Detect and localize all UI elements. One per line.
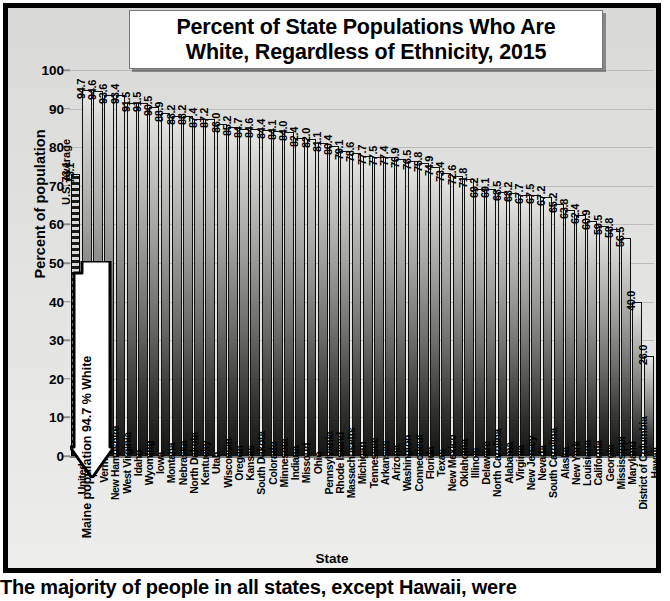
bar[interactable]: 67.5 xyxy=(531,195,541,456)
bar[interactable]: 84.1 xyxy=(273,131,283,456)
bar-value-label-wrap: 82.0 xyxy=(308,100,316,140)
bar-slot: 79.1 xyxy=(340,8,351,456)
bar[interactable]: 60.9 xyxy=(587,221,597,456)
y-axis-tick-label: 30 xyxy=(49,333,64,348)
bar-value-label-wrap: 63.8 xyxy=(566,171,574,211)
bar-slot: 78.6 xyxy=(351,8,362,456)
bar[interactable]: 56.5 xyxy=(621,238,631,456)
bar[interactable]: 77.7 xyxy=(363,156,373,456)
bar[interactable]: 91.5 xyxy=(127,103,137,456)
bar[interactable]: 82.4 xyxy=(295,138,305,456)
bar-slot: 77.7 xyxy=(362,8,373,456)
bar[interactable]: 93.4 xyxy=(116,95,126,456)
bar[interactable]: 75.8 xyxy=(419,163,429,456)
bar[interactable]: 71.8 xyxy=(464,179,474,456)
bar[interactable]: 86.0 xyxy=(217,124,227,456)
bar[interactable]: 73.4 xyxy=(441,173,451,456)
bar-value-label-wrap: 87.4 xyxy=(195,80,203,120)
bar-value-label-wrap: 67.7 xyxy=(521,156,529,196)
bar-value-label-wrap: 68.2 xyxy=(510,154,518,194)
bar[interactable]: 84.4 xyxy=(262,130,272,456)
bar[interactable]: 84.0 xyxy=(284,132,294,456)
bar-value-label-wrap: 71.8 xyxy=(465,140,473,180)
y-axis-title: Percent of population xyxy=(32,24,48,384)
bar[interactable]: 87.2 xyxy=(205,119,215,456)
bar[interactable]: 88.9 xyxy=(161,113,171,456)
bar[interactable]: 68.2 xyxy=(509,193,519,456)
bar-slot: 82.4 xyxy=(295,8,306,456)
bar-value-label-wrap: 26.0 xyxy=(645,317,653,357)
bar[interactable]: 67.7 xyxy=(520,195,530,456)
bar-value-label-wrap: 82.4 xyxy=(296,99,304,139)
bar[interactable]: 69.2 xyxy=(475,189,485,456)
bar-value-label-wrap: 94.7 xyxy=(83,51,91,91)
maine-callout-arrow: Maine population 94.7 % White xyxy=(70,261,114,478)
bar-value-label-wrap: 65.2 xyxy=(555,165,563,205)
bar-value-label-wrap: 67.5 xyxy=(532,156,540,196)
bar[interactable]: 78.6 xyxy=(352,153,362,456)
bar[interactable]: 68.5 xyxy=(498,192,508,456)
bar-value-label-wrap: 86.0 xyxy=(218,85,226,125)
bar-slot: 86.0 xyxy=(216,8,227,456)
bar[interactable]: 67.2 xyxy=(543,197,553,456)
bar-value-label-wrap: 72.6 xyxy=(454,137,462,177)
bar[interactable]: 58.8 xyxy=(610,229,620,456)
bar-slot: 80.4 xyxy=(328,8,339,456)
bar-slot: 69.2 xyxy=(474,8,485,456)
bar[interactable]: 59.5 xyxy=(599,226,609,456)
bar-value-label-wrap: 84.1 xyxy=(274,92,282,132)
chart-frame: 0102030405060708090100 Percent of popula… xyxy=(3,3,661,573)
bar-value-label-wrap: 84.6 xyxy=(251,90,259,130)
bar[interactable]: 79.1 xyxy=(340,151,350,456)
bar[interactable]: 87.4 xyxy=(194,119,204,456)
bar-value-label-wrap: 84.7 xyxy=(240,90,248,130)
bar-value-label-wrap: 60.9 xyxy=(588,182,596,222)
bar[interactable]: 65.2 xyxy=(554,204,564,456)
bar-slot: 67.7 xyxy=(519,8,530,456)
bar-value-label-wrap: 78.6 xyxy=(353,114,361,154)
bar-value-label-wrap: 74.9 xyxy=(431,128,439,168)
bar[interactable]: 85.2 xyxy=(228,127,238,456)
bar-slot: 88.9 xyxy=(160,8,171,456)
bar-value-label-wrap: 91.5 xyxy=(128,64,136,104)
bar-value-label-wrap: 88.2 xyxy=(173,77,181,117)
bar[interactable]: 84.6 xyxy=(250,129,260,456)
bar[interactable]: 63.8 xyxy=(565,210,575,456)
bar-slot: 62.4 xyxy=(576,8,587,456)
bar[interactable]: 76.5 xyxy=(408,161,418,456)
bar-slot: 90.5 xyxy=(149,8,160,456)
bar-slot: 59.5 xyxy=(598,8,609,456)
bar-slot: 56.5 xyxy=(620,8,631,456)
bar[interactable]: 62.4 xyxy=(576,215,586,456)
bar-slot: 69.1 xyxy=(486,8,497,456)
bar-slot: 82.0 xyxy=(306,8,317,456)
bar-value-label-wrap: 59.5 xyxy=(600,187,608,227)
bar[interactable]: 69.1 xyxy=(486,189,496,456)
bar[interactable]: 72.6 xyxy=(453,176,463,456)
y-axis-tick-label: 60 xyxy=(49,217,64,232)
bar-slot: 88.2 xyxy=(182,8,193,456)
bar-slot: 91.5 xyxy=(137,8,148,456)
bar[interactable]: 80.4 xyxy=(329,146,339,456)
chart-title-line-2: White, Regardless of Ethnicity, 2015 xyxy=(176,40,555,65)
bar[interactable]: 81.1 xyxy=(318,143,328,456)
bar-value-label-wrap: 81.1 xyxy=(319,104,327,144)
bar-slot: 71.8 xyxy=(463,8,474,456)
bar[interactable]: 91.5 xyxy=(138,103,148,456)
bar[interactable]: 88.2 xyxy=(172,116,182,456)
bar-value-label-wrap: 76.5 xyxy=(409,122,417,162)
bar-value-label-wrap: 40.0 xyxy=(633,263,641,303)
bar[interactable]: 74.9 xyxy=(430,167,440,456)
chart-title: Percent of State Populations Who AreWhit… xyxy=(176,15,555,64)
bar-value-label-wrap: 91.5 xyxy=(139,64,147,104)
bar[interactable]: 84.7 xyxy=(239,129,249,456)
bar[interactable]: 77.5 xyxy=(374,157,384,456)
bar[interactable]: 90.5 xyxy=(149,107,159,456)
bar-value-label-wrap: 75.8 xyxy=(420,124,428,164)
bar-slot: 84.0 xyxy=(283,8,294,456)
bar[interactable]: 76.9 xyxy=(396,159,406,456)
bar[interactable]: 88.2 xyxy=(183,116,193,456)
y-axis-tick-label: 40 xyxy=(49,294,64,309)
bar[interactable]: 77.4 xyxy=(385,157,395,456)
bar[interactable]: 82.0 xyxy=(307,139,317,456)
